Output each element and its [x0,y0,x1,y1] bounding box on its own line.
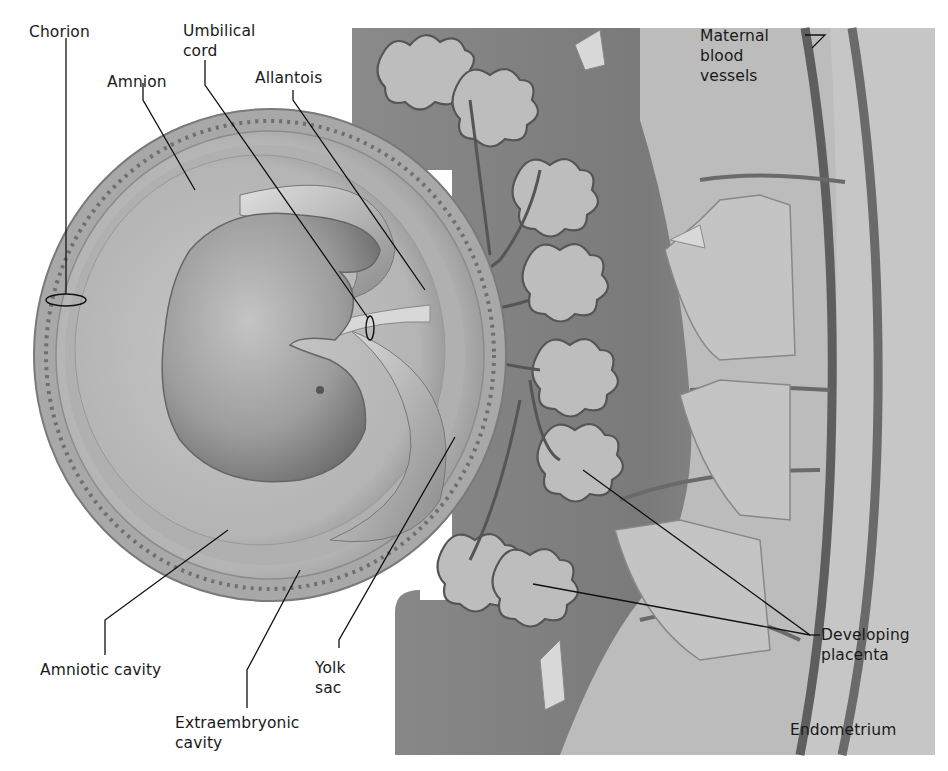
label-chorion: Chorion [29,22,90,42]
label-extraembryonic-cavity: Extraembryonic cavity [175,713,299,753]
label-endometrium: Endometrium [790,720,896,740]
label-amniotic-cavity: Amniotic cavity [40,660,161,680]
embryo-placenta-diagram [0,0,948,771]
embryo-otic-pit [316,386,324,394]
label-maternal-blood-vessels: Maternal blood vessels [700,26,769,86]
label-allantois: Allantois [255,68,322,88]
label-amnion: Amnion [107,72,167,92]
label-developing-placenta: Developing placenta [821,625,910,665]
label-yolk-sac: Yolk sac [315,658,346,698]
label-umbilical-cord: Umbilical cord [183,21,255,61]
